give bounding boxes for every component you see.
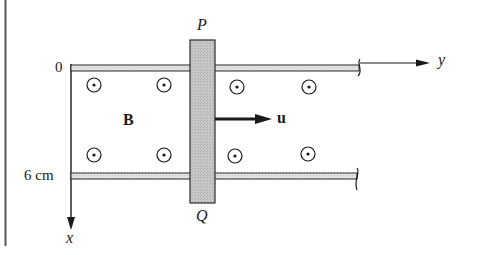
velocity-arrowhead-icon	[255, 114, 272, 124]
rail-break-icon	[356, 168, 358, 190]
velocity-arrow	[215, 114, 272, 124]
diagram-canvas	[0, 0, 481, 255]
bar-label-p: P	[197, 17, 207, 33]
field-out-of-page-icon	[87, 148, 101, 162]
field-out-of-page-icon	[157, 148, 171, 162]
x-origin-label: 0	[55, 60, 63, 75]
top-rail	[71, 59, 360, 76]
field-label-b: B	[123, 112, 134, 128]
sliding-bar-pq	[190, 40, 215, 203]
y-axis	[360, 60, 430, 67]
field-out-of-page-icon	[228, 149, 242, 163]
bar-label-q: Q	[196, 208, 208, 224]
field-out-of-page-icon	[302, 80, 316, 94]
field-out-of-page-icon	[157, 78, 171, 92]
field-out-of-page-icon	[230, 80, 244, 94]
x-mark-label: 6 cm	[24, 168, 54, 183]
velocity-label-u: u	[277, 110, 286, 126]
y-axis-label: y	[438, 52, 445, 68]
field-out-of-page-icon	[87, 78, 101, 92]
field-out-of-page-icon	[301, 147, 315, 161]
x-axis-label: x	[66, 230, 73, 246]
x-axis	[67, 64, 75, 230]
y-axis-arrowhead-icon	[416, 60, 430, 67]
